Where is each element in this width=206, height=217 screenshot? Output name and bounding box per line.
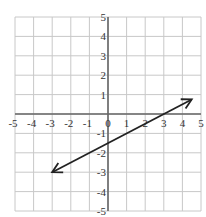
x-tick-label: 4	[180, 117, 186, 129]
y-tick-label: 5	[101, 11, 107, 23]
x-tick-label: -5	[8, 117, 18, 129]
plotted-line	[52, 99, 192, 172]
x-tick-labels: -5-4-3-2-1012345	[8, 117, 204, 129]
x-tick-label: 1	[124, 117, 130, 129]
y-tick-label: -3	[97, 166, 107, 178]
y-tick-label: -4	[97, 186, 107, 198]
x-tick-label: 0	[105, 117, 111, 129]
line-segment	[52, 99, 192, 172]
y-tick-label: 3	[101, 50, 107, 62]
x-tick-label: -1	[83, 117, 92, 129]
coordinate-plane: -5-4-3-2-1012345 54321-1-2-3-4-5	[0, 0, 206, 217]
y-tick-label: -5	[97, 205, 107, 217]
x-tick-label: -3	[46, 117, 56, 129]
x-tick-label: 3	[161, 117, 167, 129]
y-tick-label: -1	[97, 127, 106, 139]
axes	[15, 17, 201, 211]
y-tick-label: 2	[101, 69, 107, 81]
x-tick-label: 5	[198, 117, 204, 129]
x-tick-label: -4	[27, 117, 37, 129]
y-tick-label: 4	[101, 30, 107, 42]
y-tick-label: 1	[101, 89, 107, 101]
x-tick-label: -2	[64, 117, 73, 129]
